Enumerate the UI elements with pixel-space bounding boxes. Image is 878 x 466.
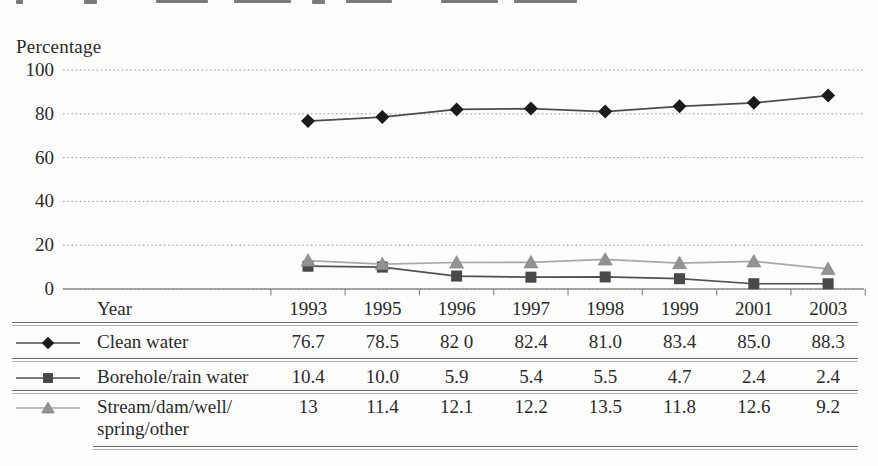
square-marker <box>748 278 759 289</box>
diamond-legend-icon <box>16 331 80 355</box>
value-cell: 10.0 <box>345 366 419 388</box>
table-rule-bottom <box>93 446 858 450</box>
square-marker <box>451 271 462 282</box>
diamond-marker <box>375 110 389 124</box>
value-cell: 10.4 <box>271 366 345 388</box>
legend-key-cell <box>0 331 95 355</box>
value-cell: 11.4 <box>345 396 419 418</box>
value-cell: 2.4 <box>791 366 865 388</box>
value-cell: 12.6 <box>717 396 791 418</box>
value-cell: 13.5 <box>568 396 642 418</box>
diamond-marker <box>598 105 612 119</box>
table-row-3: Stream/dam/well/ spring/other1311.412.11… <box>0 396 866 440</box>
table-row-2: Borehole/rain water10.410.05.95.45.54.72… <box>0 366 866 390</box>
value-cell: 5.5 <box>568 366 642 388</box>
value-cell: 4.7 <box>642 366 716 388</box>
table-rule-row1 <box>12 358 858 362</box>
triangle-legend-icon <box>16 396 80 420</box>
square-marker <box>43 373 53 383</box>
square-marker <box>823 278 834 289</box>
value-cell: 82.4 <box>494 331 568 353</box>
value-cell: 82 0 <box>420 331 494 353</box>
year-column-header: 1998 <box>568 298 642 320</box>
value-cell: 12.1 <box>420 396 494 418</box>
table-rule-header <box>12 322 858 326</box>
diamond-marker <box>673 99 687 113</box>
legend-key-cell <box>0 366 95 390</box>
legend-key-cell <box>0 396 95 420</box>
year-header-label: Year <box>95 298 271 320</box>
value-cell: 76.7 <box>271 331 345 353</box>
value-cell: 2.4 <box>717 366 791 388</box>
series-label: Clean water <box>95 331 271 353</box>
diamond-marker <box>42 337 55 350</box>
value-cell: 81.0 <box>568 331 642 353</box>
year-column-header: 1999 <box>642 298 716 320</box>
table-row-1: Clean water76.778.582 082.481.083.485.08… <box>0 331 866 355</box>
diamond-marker <box>821 89 835 103</box>
series-label: Borehole/rain water <box>95 366 271 388</box>
square-marker <box>525 272 536 283</box>
value-cell: 9.2 <box>791 396 865 418</box>
value-cell: 12.2 <box>494 396 568 418</box>
table-header-row: Year 19931995199619971998199920012003 <box>0 298 866 320</box>
scanned-chart-page: Percentage 100806040200 Year 19931995199… <box>0 0 878 466</box>
value-cell: 78.5 <box>345 331 419 353</box>
year-column-header: 2003 <box>791 298 865 320</box>
value-cell: 5.9 <box>420 366 494 388</box>
diamond-marker <box>450 102 464 116</box>
square-marker <box>674 273 685 284</box>
year-column-header: 2001 <box>717 298 791 320</box>
value-cell: 11.8 <box>642 396 716 418</box>
diamond-marker <box>747 96 761 110</box>
value-cell: 83.4 <box>642 331 716 353</box>
value-cell: 88.3 <box>791 331 865 353</box>
value-cell: 5.4 <box>494 366 568 388</box>
year-column-header: 1993 <box>271 298 345 320</box>
year-column-header: 1995 <box>345 298 419 320</box>
square-legend-icon <box>16 366 80 390</box>
square-marker <box>600 271 611 282</box>
diamond-marker <box>301 114 315 128</box>
year-column-header: 1996 <box>420 298 494 320</box>
table-rule-row2 <box>12 390 858 394</box>
series-label: Stream/dam/well/ spring/other <box>95 396 271 440</box>
value-cell: 13 <box>271 396 345 418</box>
value-cell: 85.0 <box>717 331 791 353</box>
year-column-header: 1997 <box>494 298 568 320</box>
